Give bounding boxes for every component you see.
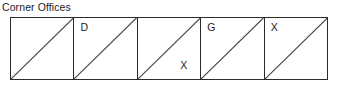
- diagram-page: Corner Offices D X G: [0, 0, 337, 92]
- cell-3[interactable]: X: [138, 18, 201, 79]
- cell-5-label: X: [271, 22, 278, 33]
- cell-5[interactable]: X: [265, 18, 327, 79]
- corner-offices-cell-strip: D X G X: [10, 17, 328, 80]
- cell-4-label: G: [207, 22, 215, 33]
- diagonal-line-icon: [11, 18, 73, 79]
- cell-2-label: D: [80, 22, 88, 33]
- diagonal-line-icon: [138, 18, 200, 79]
- page-title: Corner Offices: [2, 1, 71, 14]
- cell-2[interactable]: D: [74, 18, 137, 79]
- cell-3-label: X: [180, 60, 187, 71]
- cell-1[interactable]: [11, 18, 74, 79]
- cell-4[interactable]: G: [201, 18, 264, 79]
